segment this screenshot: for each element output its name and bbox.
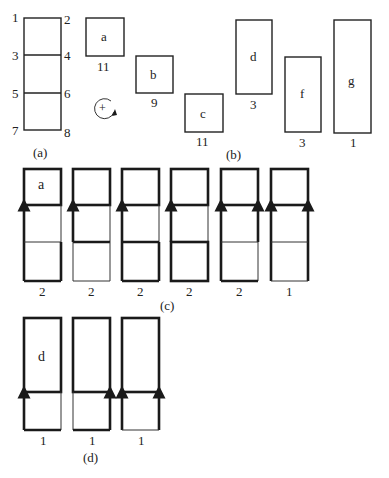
piece-b: b 9: [136, 56, 173, 110]
svg-text:f: f: [300, 86, 305, 101]
node-label-1: 1: [12, 10, 19, 25]
node-label-2: 2: [64, 12, 71, 27]
node-label-4: 4: [64, 48, 71, 63]
svg-text:a: a: [38, 177, 45, 192]
node-label-3: 3: [12, 48, 19, 63]
panel-label-c: (c): [160, 298, 174, 313]
panel-label-d: (d): [83, 450, 98, 465]
column-count: 2: [88, 284, 95, 299]
svg-text:d: d: [250, 49, 257, 64]
column-count: 2: [186, 284, 193, 299]
column-count: 2: [236, 284, 243, 299]
rotation-clockwise-icon: +: [95, 99, 117, 119]
tiling-diagram: 1 2 3 4 5 6 7 8 + (a) a 11 b 9 c 11: [0, 0, 389, 478]
column-count: 1: [138, 433, 145, 448]
column-count: 1: [40, 433, 47, 448]
svg-text:g: g: [348, 73, 355, 88]
node-label-8: 8: [64, 125, 71, 140]
piece-count: 3: [250, 97, 257, 112]
column-outline: [24, 18, 61, 130]
panel-c: a 2 2 2 2: [24, 169, 308, 313]
panel-d: d 1 1 1 (d): [24, 318, 159, 465]
svg-text:a: a: [101, 29, 107, 44]
column-count: 2: [39, 284, 46, 299]
tiling-column: 1: [271, 169, 308, 299]
piece-f: f 3: [285, 57, 321, 150]
column-count: 1: [89, 433, 96, 448]
tiling-column: 1: [122, 318, 159, 448]
node-label-7: 7: [12, 123, 19, 138]
panel-label-a: (a): [33, 145, 47, 160]
node-label-6: 6: [64, 86, 71, 101]
piece-count: 1: [350, 135, 357, 150]
piece-c: c 11: [185, 94, 223, 149]
tiling-column: 1: [73, 318, 110, 448]
tiling-column: 2: [171, 169, 208, 299]
piece-count: 11: [97, 59, 110, 74]
piece-count: 11: [196, 134, 209, 149]
svg-text:d: d: [38, 349, 45, 364]
tiling-column: 2: [122, 169, 159, 299]
column-count: 2: [137, 284, 144, 299]
svg-text:+: +: [99, 101, 106, 115]
column-count: 1: [286, 284, 293, 299]
tiling-column: 2: [221, 169, 258, 299]
svg-text:b: b: [150, 67, 157, 82]
tiling-column: 2: [73, 169, 110, 299]
piece-a: a 11: [86, 18, 124, 74]
svg-text:c: c: [200, 106, 206, 121]
panel-label-b: (b): [226, 147, 241, 162]
piece-d: d 3: [236, 20, 272, 112]
tiling-column: d 1: [24, 318, 61, 448]
panel-b: a 11 b 9 c 11 d 3 f 3 g 1 (b): [86, 18, 371, 162]
tiling-column: a 2: [24, 169, 61, 299]
piece-count: 3: [299, 135, 306, 150]
node-label-5: 5: [12, 86, 19, 101]
piece-g: g 1: [334, 20, 371, 150]
piece-count: 9: [151, 95, 158, 110]
